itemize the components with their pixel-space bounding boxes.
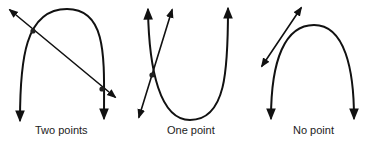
parabola-curve (148, 9, 228, 120)
intersection-point (149, 72, 154, 77)
intersection-point (99, 86, 104, 91)
label-one-point: One point (167, 124, 215, 136)
non-intersecting-line (262, 8, 301, 66)
parabola-curve (20, 9, 104, 120)
panel-one-point (139, 9, 228, 120)
parabola-curve (271, 25, 354, 118)
intersection-point (30, 28, 35, 33)
panel-two-points (10, 9, 115, 120)
label-no-point: No point (293, 124, 334, 136)
panel-no-point (262, 8, 354, 118)
tangent-line (139, 10, 172, 117)
label-two-points: Two points (35, 124, 88, 136)
